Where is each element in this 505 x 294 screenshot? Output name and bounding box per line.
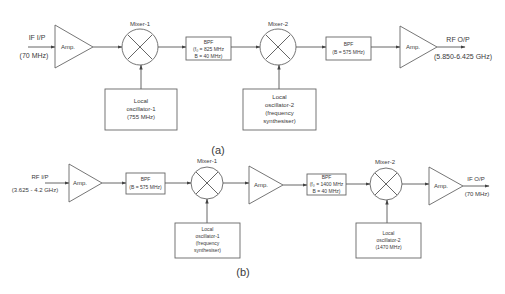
a-caption: (a) xyxy=(211,144,224,156)
b-mixer1-label: Mixer-1 xyxy=(197,158,218,164)
b-lo2-line1: Local xyxy=(383,230,395,236)
a-mixer1-icon xyxy=(122,29,158,65)
a-lo2-line2: oscillator-2 xyxy=(265,102,295,108)
b-lo2-line2: oscillator-2 xyxy=(376,237,400,243)
diagram-a: IF I/P (70 MHz) Amp. Mixer-1 Local oscil… xyxy=(20,21,492,156)
a-mixer2-icon xyxy=(260,29,296,65)
b-amp2-label: Amp. xyxy=(254,182,268,188)
b-input-freq: (3.625 - 4.2 GHz) xyxy=(12,187,58,193)
b-lo1-line4: synthesiser) xyxy=(194,247,221,253)
b-lo1-line2: oscillator-1 xyxy=(195,233,219,239)
b-mixer2-icon xyxy=(370,168,402,200)
a-lo2-line3: (frequency xyxy=(265,110,293,116)
b-mixer1-icon xyxy=(191,167,223,199)
a-mixer1-label: Mixer-1 xyxy=(130,21,151,27)
b-bpf2-line2: B = 40 MHz) xyxy=(313,188,341,194)
a-bpf1-line2: B = 40 MHz) xyxy=(195,53,223,59)
a-lo1-line1: Local xyxy=(134,98,148,104)
a-bpf1-title: BPF xyxy=(204,39,214,45)
b-lo1-line1: Local xyxy=(202,226,214,232)
a-lo2-line4: synthesiser) xyxy=(263,118,295,124)
b-caption: (b) xyxy=(236,266,249,278)
b-bpf2-title: BPF xyxy=(322,174,332,180)
a-lo1-line2: oscillator-1 xyxy=(126,106,156,112)
a-output-label: RF O/P xyxy=(446,36,470,43)
diagram-b: RF I/P (3.625 - 4.2 GHz) Amp. BPF (B = 5… xyxy=(12,158,490,278)
a-input-label: IF I/P xyxy=(29,34,46,41)
a-mixer2-label: Mixer-2 xyxy=(268,21,289,27)
b-lo2-line3: (1470 MHz) xyxy=(375,244,401,250)
a-output-freq: (5.850-6.425 GHz) xyxy=(434,53,492,61)
b-output-freq: (70 MHz) xyxy=(465,191,490,197)
b-output-label: IF O/P xyxy=(467,176,484,182)
b-bpf1-line1: (B = 575 MHz) xyxy=(129,184,162,190)
b-mixer2-label: Mixer-2 xyxy=(375,159,396,165)
b-bpf1-title: BPF xyxy=(141,176,151,182)
b-amp3-label: Amp. xyxy=(434,183,448,189)
b-input-label: RF I/P xyxy=(31,174,48,180)
b-amp1-label: Amp. xyxy=(73,180,87,186)
b-bpf2-line1: (f₀ = 1400 MHz xyxy=(310,181,344,187)
a-bpf1-line1: (f₀ = 825 MHz xyxy=(193,46,224,52)
a-amp2-label: Amp. xyxy=(406,44,420,50)
a-amp1-label: Amp. xyxy=(61,44,75,50)
a-input-freq: (70 MHz) xyxy=(20,52,49,60)
a-lo1-line3: (755 MHz) xyxy=(127,114,155,120)
a-bpf2-line1: (B = 575 MHz) xyxy=(332,49,365,55)
a-bpf2-title: BPF xyxy=(344,41,354,47)
block-diagram-canvas: IF I/P (70 MHz) Amp. Mixer-1 Local oscil… xyxy=(0,0,505,294)
b-lo1-line3: (frequency xyxy=(196,240,220,246)
a-lo2-line1: Local xyxy=(272,94,286,100)
